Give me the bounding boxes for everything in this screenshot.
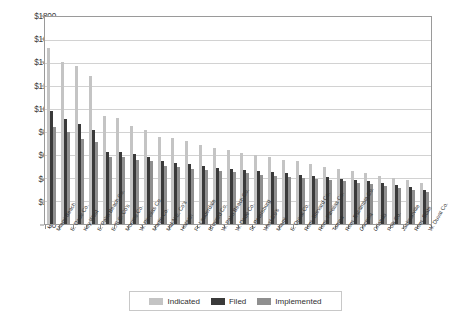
bar-group bbox=[266, 17, 280, 224]
bar-group bbox=[86, 17, 100, 224]
bar-group bbox=[403, 17, 417, 224]
legend-label: Indicated bbox=[167, 297, 199, 306]
legend-item-indicated: Indicated bbox=[149, 297, 199, 306]
legend-swatch-indicated-icon bbox=[149, 298, 163, 305]
bar-group bbox=[376, 17, 390, 224]
chart-legend: IndicatedFiledImplemented bbox=[129, 291, 342, 311]
bar-group bbox=[252, 17, 266, 224]
bar-implemented bbox=[288, 177, 291, 224]
bar-group bbox=[155, 17, 169, 224]
legend-label: Filed bbox=[229, 297, 246, 306]
bar-group bbox=[279, 17, 293, 224]
bars-layer bbox=[45, 17, 431, 224]
bar-group bbox=[45, 17, 59, 224]
legend-item-filed: Filed bbox=[211, 297, 246, 306]
legend-swatch-filed-icon bbox=[211, 298, 225, 305]
bar-group bbox=[197, 17, 211, 224]
legend-item-implemented: Implemented bbox=[257, 297, 321, 306]
bar-group bbox=[348, 17, 362, 224]
bar-group bbox=[59, 17, 73, 224]
bar-group bbox=[417, 17, 431, 224]
bar-implemented bbox=[53, 127, 56, 224]
legend-label: Implemented bbox=[275, 297, 321, 306]
legend-swatch-implemented-icon bbox=[257, 298, 271, 305]
bar-group bbox=[169, 17, 183, 224]
bar-group bbox=[224, 17, 238, 224]
bar-group bbox=[73, 17, 87, 224]
bar-group bbox=[183, 17, 197, 224]
x-axis-tick-mark bbox=[45, 225, 46, 229]
bar-group bbox=[100, 17, 114, 224]
bar-chart: $0$200$400$600$800$1000$1200$1400$1600$1… bbox=[0, 0, 449, 327]
bar-group bbox=[293, 17, 307, 224]
bar-group bbox=[307, 17, 321, 224]
bar-group bbox=[210, 17, 224, 224]
bar-group bbox=[142, 17, 156, 224]
bar-group bbox=[128, 17, 142, 224]
bar-group bbox=[390, 17, 404, 224]
